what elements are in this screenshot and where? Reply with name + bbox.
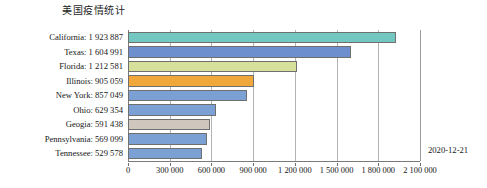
x-tick-label: 1 800 000	[362, 166, 396, 175]
gridline-2100000	[420, 30, 421, 161]
x-tick-label: 900 000	[240, 166, 267, 175]
bar-geogia[interactable]	[128, 119, 210, 130]
bar-ohio[interactable]	[128, 104, 216, 115]
bar-tennessee[interactable]	[128, 148, 202, 159]
x-tick-label: 2 100 000	[403, 166, 437, 175]
bar-row	[128, 45, 420, 60]
x-tick-label: 1 500 000	[320, 166, 354, 175]
date-stamp: 2020-12-21	[428, 145, 468, 155]
category-label-texas: Texas: 1 604 991	[64, 45, 123, 60]
bar-series	[128, 30, 420, 161]
bar-california[interactable]	[128, 32, 396, 43]
x-tick-label: 300 000	[156, 166, 183, 175]
chart-title: 美国疫情统计	[62, 2, 125, 17]
x-tick-label: 600 000	[198, 166, 225, 175]
bar-row	[128, 88, 420, 103]
category-label-pennsylvania: Pennsylvania: 569 099	[45, 132, 123, 147]
category-label-geogia: Geogia: 591 438	[66, 117, 123, 132]
category-label-illinois: Illinois: 905 059	[66, 74, 123, 89]
bar-row	[128, 146, 420, 161]
bar-texas[interactable]	[128, 46, 351, 57]
category-axis-labels: California: 1 923 887Texas: 1 604 991Flo…	[0, 30, 126, 161]
bar-row	[128, 132, 420, 147]
plot-area	[128, 30, 420, 161]
bar-new-york[interactable]	[128, 90, 247, 101]
x-axis-line	[128, 161, 420, 162]
bar-row	[128, 103, 420, 118]
bar-row	[128, 59, 420, 74]
x-tick-label: 0	[126, 166, 130, 175]
bar-row	[128, 74, 420, 89]
bar-row	[128, 117, 420, 132]
bar-pennsylvania[interactable]	[128, 133, 207, 144]
bar-florida[interactable]	[128, 61, 297, 72]
category-label-florida: Florida: 1 212 581	[59, 59, 123, 74]
category-label-ohio: Ohio: 629 354	[73, 103, 123, 118]
bar-row	[128, 30, 420, 45]
category-label-california: California: 1 923 887	[49, 30, 123, 45]
category-label-new-york: New York: 857 049	[56, 88, 123, 103]
bar-illinois[interactable]	[128, 75, 254, 86]
x-axis-tick-labels: 0300 000600 000900 0001 200 0001 500 000…	[128, 163, 420, 179]
x-tick-label: 1 200 000	[278, 166, 312, 175]
bar-chart: 美国疫情统计 California: 1 923 887Texas: 1 604…	[0, 0, 487, 188]
category-label-tennessee: Tennessee: 529 578	[55, 146, 123, 161]
